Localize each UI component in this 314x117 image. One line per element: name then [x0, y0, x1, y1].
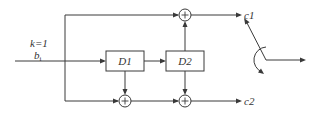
d2-down-arrow [183, 89, 188, 95]
encoder-diagram: k=1 bi D1 D2 c1 [0, 0, 314, 117]
c2-label: c2 [244, 95, 255, 107]
register-d2-label: D2 [177, 55, 192, 67]
d1-down-arrow [123, 89, 128, 95]
c2-output-arrow [236, 99, 242, 104]
top-path-arrow [173, 13, 179, 18]
switch-rotation-arrow [258, 69, 264, 75]
switch-output-arrow [300, 58, 306, 63]
bottom-adder-1 [119, 95, 131, 107]
d2-up-arrow [183, 21, 188, 27]
rotating-switch-icon [244, 18, 306, 74]
c1-output-arrow [236, 13, 242, 18]
register-d1-label: D1 [117, 55, 131, 67]
k-label: k=1 [30, 37, 48, 49]
switch-rotation-arc [254, 47, 266, 72]
b-label: bi [34, 49, 42, 63]
bottom-path-arrow [113, 99, 119, 104]
bottom-adder-2 [179, 95, 191, 107]
input-arrow [100, 59, 106, 64]
switch-arm [246, 21, 266, 60]
adder1-to-adder2-arrow [173, 99, 179, 104]
d1-to-d2-arrow [160, 59, 166, 64]
top-adder [179, 9, 191, 21]
